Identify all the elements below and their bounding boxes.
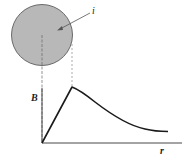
x-axis-label: r (160, 146, 164, 156)
y-axis-label: B (31, 93, 38, 103)
current-label: i (92, 6, 95, 16)
diagram-canvas (0, 0, 194, 158)
field-curve (42, 87, 168, 143)
